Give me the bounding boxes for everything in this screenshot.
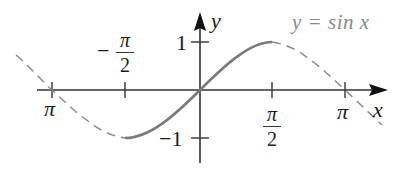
sine-curve-dashed-right: [272, 42, 382, 125]
tick-label-neg-half-pi-sign: −: [97, 40, 109, 62]
fraction-bar: [116, 52, 134, 53]
tick-label-y-1: 1: [176, 32, 187, 54]
curve-label: y = sin x: [292, 12, 370, 33]
tick-label-pi: π: [337, 101, 348, 123]
x-axis-label: x: [373, 99, 383, 121]
fraction-bar: [263, 126, 281, 127]
tick-label-neg-half-pi-num: π: [116, 30, 134, 50]
tick-label-half-pi-num: π: [263, 104, 281, 124]
y-axis-label: y: [211, 10, 221, 32]
tick-label-neg-half-pi-den: 2: [116, 55, 134, 75]
tick-label-half-pi-den: 2: [263, 129, 281, 149]
tick-label-half-pi: π 2: [263, 104, 281, 149]
tick-label-y-neg-1: −1: [159, 128, 182, 150]
sine-curve-dashed-left: [16, 55, 125, 138]
tick-label-neg-half-pi: π 2: [116, 30, 134, 75]
tick-label-neg-pi: π: [44, 98, 55, 120]
